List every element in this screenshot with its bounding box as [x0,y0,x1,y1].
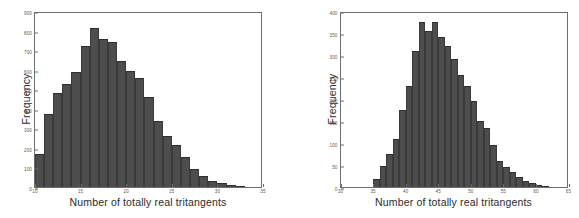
histogram-bar [35,154,44,187]
histogram-bar [53,93,62,187]
histogram-bar [71,72,80,187]
x-tick-label: 10 [32,187,37,194]
x-tick-label: 65 [566,187,571,194]
y-tick-mark [341,57,344,58]
histogram-bar [425,31,432,187]
histogram-bar [386,154,393,187]
y-tick-mark [35,13,38,14]
histogram-bar [44,114,53,187]
histogram-bar [471,101,478,187]
y-tick-mark [35,71,38,72]
y-tick-mark [341,167,344,168]
x-tick-label: 35 [260,187,265,194]
x-tick-label: 60 [533,187,538,194]
y-tick-mark [341,35,344,36]
x-tick-label: 30 [215,187,220,194]
histogram-bar [399,110,406,187]
y-tick-mark [341,123,344,124]
histogram-bar [227,185,236,187]
histogram-bar [181,157,190,187]
y-tick-mark [341,101,344,102]
y-tick-label: 900 [24,11,35,16]
y-tick-label: 350 [330,33,341,38]
histogram-bar [62,84,71,187]
histogram-bar [419,22,426,187]
histogram-bar [117,61,126,187]
y-tick-mark [35,149,38,150]
histogram-bar [523,181,530,187]
y-tick-mark [35,32,38,33]
y-tick-mark [341,13,344,14]
histogram-bar [432,22,439,187]
y-tick-label: 100 [24,167,35,172]
histogram-bars-right [341,13,567,187]
histogram-bar [406,86,413,187]
panel-right-histogram: 0501001502002503003504003035404550556065… [290,0,579,218]
y-tick-mark [35,110,38,111]
histogram-bar [438,37,445,187]
y-tick-mark [35,169,38,170]
y-tick-mark [35,91,38,92]
histogram-bar [464,86,471,187]
histogram-bar [163,136,172,187]
x-tick-label: 40 [403,187,408,194]
histogram-bar [484,128,491,187]
y-tick-mark [341,145,344,146]
x-axis-title-right: Number of totally real tritangents [340,196,568,208]
histogram-bar [81,46,90,187]
x-axis-title-left: Number of totally real tritangents [34,196,262,208]
y-tick-label: 400 [330,11,341,16]
histogram-bar [516,177,523,187]
histogram-bar [393,139,400,187]
y-axis-title-right: Frequency [326,39,338,159]
figure-two-histograms: 0100200300400500600700800900101520253035… [0,0,579,218]
histogram-bar [477,121,484,187]
x-tick-label: 35 [370,187,375,194]
histogram-bar [172,145,181,187]
histogram-bar [126,71,135,187]
histogram-bar [542,186,549,187]
y-tick-mark [341,79,344,80]
histogram-bar [199,176,208,187]
histogram-bar [154,121,163,187]
histogram-bar [497,161,504,187]
x-tick-label: 45 [436,187,441,194]
histogram-bar [451,59,458,187]
plot-area-right: 0501001502002503003504003035404550556065 [340,12,568,188]
x-tick-label: 30 [338,187,343,194]
histogram-bar [144,97,153,187]
histogram-bar [236,186,245,187]
y-axis-title-left: Frequency [20,39,32,159]
histogram-bar [99,39,108,187]
x-tick-label: 50 [468,187,473,194]
panel-left-histogram: 0100200300400500600700800900101520253035… [0,0,290,218]
histogram-bar [458,75,465,187]
x-tick-label: 15 [78,187,83,194]
histogram-bar [135,78,144,187]
x-tick-label: 55 [501,187,506,194]
y-tick-label: 50 [332,165,340,170]
histogram-bar [108,42,117,187]
x-tick-label: 25 [169,187,174,194]
histogram-bars-left [35,13,261,187]
plot-area-left: 0100200300400500600700800900101520253035 [34,12,262,188]
x-tick-label: 20 [124,187,129,194]
y-tick-mark [35,130,38,131]
histogram-bar [380,166,387,187]
y-tick-mark [35,52,38,53]
histogram-bar [190,169,199,187]
y-tick-label: 800 [24,30,35,35]
histogram-bar [90,28,99,187]
histogram-bar [445,46,452,187]
histogram-bar [510,172,517,187]
